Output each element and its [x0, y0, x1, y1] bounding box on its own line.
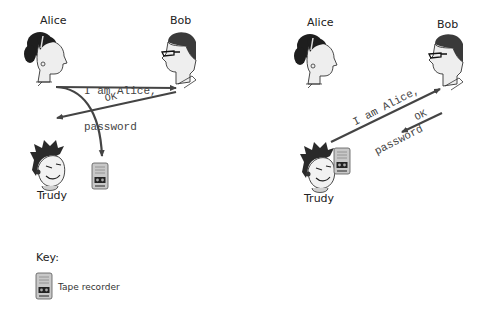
trudy-label-left: Trudy	[37, 189, 67, 202]
key-item-label: Tape recorder	[58, 282, 120, 292]
key-title: Key:	[36, 251, 59, 264]
alice-label-left: Alice	[40, 14, 66, 27]
message-line-1: I am Alice,	[351, 84, 421, 128]
key-tape-recorder-icon	[36, 273, 52, 299]
message-text-left: I am Alice, password	[84, 61, 157, 145]
alice-label-right: Alice	[307, 16, 333, 29]
tape-recorder-icon	[334, 148, 350, 174]
trudy-label-right: Trudy	[304, 192, 334, 205]
diagram-canvas	[0, 0, 485, 317]
trudy-figure-right	[300, 142, 335, 193]
bob-label-right: Bob	[437, 18, 458, 31]
message-line-1: I am Alice,	[84, 85, 157, 97]
bob-label-left: Bob	[170, 14, 191, 27]
bob-figure-right	[429, 34, 463, 90]
alice-figure-right	[294, 34, 337, 88]
message-line-2: password	[84, 121, 157, 133]
alice-figure-left	[24, 32, 67, 86]
tape-recorder-icon	[92, 163, 108, 189]
bob-figure-left	[162, 32, 196, 88]
ok-text-left: OK	[104, 91, 118, 105]
trudy-figure-left	[30, 140, 65, 191]
